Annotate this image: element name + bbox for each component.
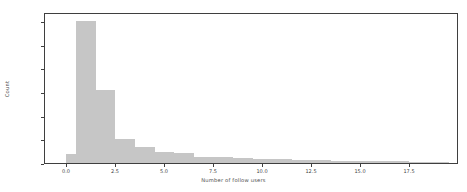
x-tick-mark [311, 164, 312, 167]
histogram-bar [389, 161, 399, 163]
x-tick-label: 2.5 [111, 168, 119, 174]
histogram-bar [144, 147, 154, 163]
x-tick-label: 10.0 [256, 168, 267, 174]
histogram-bar [301, 160, 311, 163]
histogram-bar [409, 162, 419, 163]
histogram-bar [223, 157, 233, 163]
histogram-bar [419, 162, 429, 163]
x-tick-mark [360, 164, 361, 167]
histogram-bar [262, 159, 272, 163]
histogram-bar [184, 153, 194, 163]
x-tick-label: 12.5 [305, 168, 316, 174]
y-axis-ticks: 020000400006000080000100000120000 [0, 0, 44, 192]
x-tick-mark [115, 164, 116, 167]
histogram-bar [66, 154, 76, 163]
histogram-bar [282, 159, 292, 163]
x-tick-mark [409, 164, 410, 167]
histogram-bar [76, 21, 86, 163]
histogram-bar [135, 147, 145, 163]
x-tick-mark [164, 164, 165, 167]
histogram-bar [370, 161, 380, 163]
plot-area [44, 13, 458, 164]
x-tick-label: 15.0 [354, 168, 365, 174]
histogram-bar [86, 21, 96, 163]
histogram-bar [399, 161, 409, 163]
histogram-bars [45, 14, 457, 163]
histogram-bar [154, 152, 164, 163]
histogram-bar [242, 158, 252, 163]
histogram-bar [252, 159, 262, 163]
histogram-bar [360, 161, 370, 163]
y-tick-mark [41, 164, 44, 165]
histogram-bar [311, 160, 321, 163]
histogram-bar [272, 159, 282, 163]
x-axis-title: Number of follow users [0, 177, 467, 183]
histogram-bar [105, 90, 115, 163]
histogram-bar [125, 139, 135, 163]
x-tick-mark [213, 164, 214, 167]
histogram-bar [438, 162, 448, 163]
histogram-bar [193, 157, 203, 164]
histogram-bar [174, 153, 184, 163]
histogram-bar [291, 160, 301, 163]
histogram-bar [340, 161, 350, 163]
histogram-bar [233, 158, 243, 163]
histogram-bar [213, 157, 223, 163]
histogram-bar [350, 161, 360, 163]
histogram-bar [331, 161, 341, 163]
corner-artifact [6, 185, 10, 189]
histogram-bar [321, 160, 331, 163]
histogram-bar [203, 157, 213, 164]
histogram-bar [115, 139, 125, 163]
histogram-bar [429, 162, 439, 163]
x-tick-label: 17.5 [403, 168, 414, 174]
x-tick-mark [66, 164, 67, 167]
x-tick-label: 5.0 [160, 168, 168, 174]
x-tick-label: 0.0 [62, 168, 70, 174]
x-tick-label: 7.5 [209, 168, 217, 174]
x-tick-mark [262, 164, 263, 167]
histogram-bar [164, 152, 174, 163]
histogram-figure: Count 020000400006000080000100000120000 … [0, 0, 467, 192]
histogram-bar [380, 161, 390, 163]
histogram-bar [95, 90, 105, 163]
